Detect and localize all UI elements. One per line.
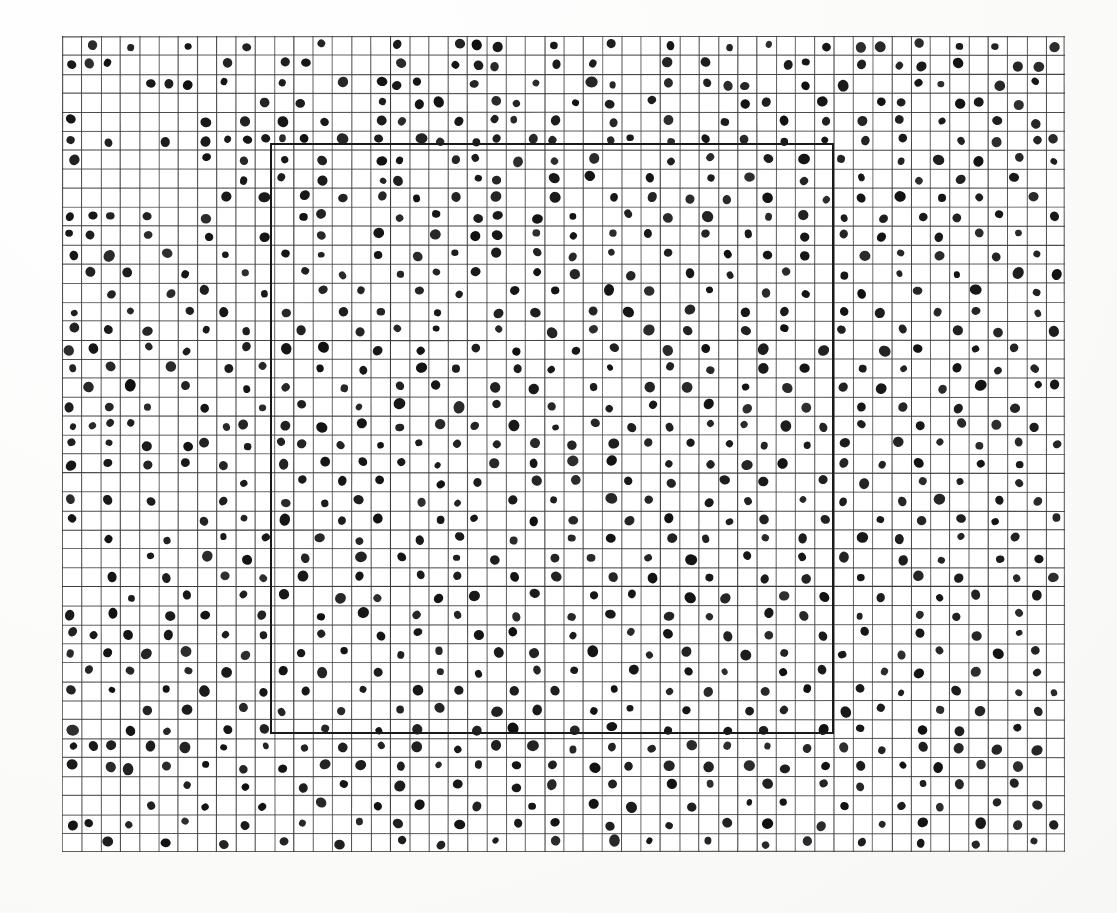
figure-root bbox=[0, 0, 1117, 913]
quadrat-grid-plot bbox=[62, 36, 1065, 852]
dot-scatter-layer bbox=[62, 36, 1065, 852]
grid-lines-layer bbox=[62, 36, 1065, 852]
